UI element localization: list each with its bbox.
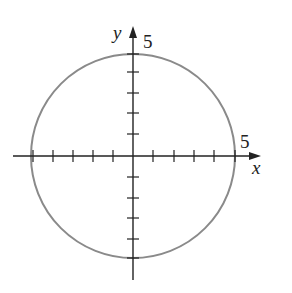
circle-diagram: y 5 5 x bbox=[0, 0, 292, 293]
x-axis-label: x bbox=[251, 157, 261, 178]
y-axis-label: y bbox=[111, 22, 122, 43]
y-axis-arrow-icon bbox=[129, 26, 137, 38]
y-tick-label-5: 5 bbox=[143, 31, 153, 52]
x-tick-label-5: 5 bbox=[240, 131, 250, 152]
